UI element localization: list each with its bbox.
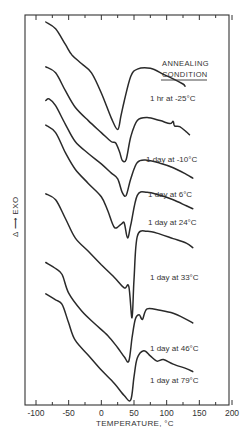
x-tick-label: 50 xyxy=(129,408,139,418)
x-tick-label: 200 xyxy=(225,408,239,418)
legend-title-line-2: CONDITION xyxy=(162,70,208,79)
series-label: 1 day at 24°C xyxy=(148,218,197,227)
x-tick-label: -100 xyxy=(27,408,44,418)
annealing-condition-labels: 1 hr at -25°C1 day at -10°C1 day at 6°C1… xyxy=(146,94,199,385)
series-label: 1 day at 6°C xyxy=(148,190,192,199)
series-label: 1 day at 33°C xyxy=(150,273,199,282)
y-axis-label-text: Δ ⟶ EXO xyxy=(11,196,20,237)
thermogram-curve xyxy=(46,67,190,162)
series-label: 1 day at -10°C xyxy=(146,155,197,164)
x-tick-label: 100 xyxy=(160,408,174,418)
thermogram-curve xyxy=(46,99,193,196)
legend-title-line-1: ANNEALING xyxy=(162,59,209,68)
dsc-thermogram-chart: -100-50050100150200 1 hr at -25°C1 day a… xyxy=(0,0,252,432)
x-tick-label: 0 xyxy=(99,408,104,418)
x-axis-tick-labels: -100-50050100150200 xyxy=(27,408,239,418)
x-axis-label: TEMPERATURE, °C xyxy=(96,419,174,428)
x-tick-label: 150 xyxy=(192,408,206,418)
x-tick-label: -50 xyxy=(63,408,76,418)
series-label: 1 day at 46°C xyxy=(150,344,199,353)
series-label: 1 hr at -25°C xyxy=(150,94,196,103)
thermogram-curve xyxy=(46,194,193,318)
y-axis-label: Δ ⟶ EXO xyxy=(11,196,20,237)
series-label: 1 day at 79°C xyxy=(150,376,199,385)
